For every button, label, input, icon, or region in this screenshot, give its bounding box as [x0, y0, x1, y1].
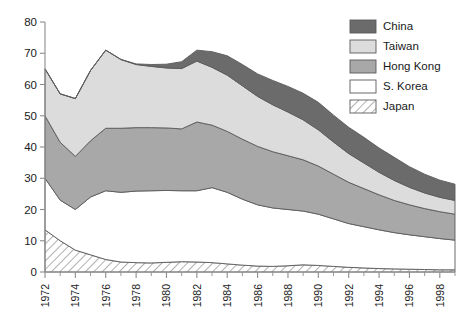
- x-tick-label: 1992: [343, 284, 355, 308]
- y-tick-label: 0: [31, 266, 37, 278]
- legend-label-japan: Japan: [383, 100, 414, 112]
- y-tick-label: 60: [24, 79, 37, 91]
- y-tick-label: 30: [24, 172, 37, 184]
- y-tick-label: 70: [24, 47, 37, 59]
- x-tick-label: 1988: [282, 284, 294, 308]
- x-tick-label: 1990: [312, 284, 324, 308]
- x-tick-label: 1996: [403, 284, 415, 308]
- stacked-area-chart: 01020304050607080 1972197419761978198019…: [0, 0, 466, 327]
- x-tick-label: 1972: [39, 284, 51, 308]
- legend-swatch-s-korea: [350, 80, 376, 93]
- x-tick-label: 1980: [160, 284, 172, 308]
- legend-swatch-japan: [350, 100, 376, 113]
- legend-label-china: China: [383, 20, 414, 32]
- y-tick-label: 80: [24, 16, 37, 28]
- legend-swatch-hong-kong: [350, 60, 376, 73]
- x-tick-label: 1982: [191, 284, 203, 308]
- x-tick-label: 1978: [130, 284, 142, 308]
- chart-legend: ChinaTaiwanHong KongS. KoreaJapan: [350, 20, 441, 113]
- legend-swatch-china: [350, 20, 376, 33]
- x-tick-label: 1998: [434, 284, 446, 308]
- legend-label-hong-kong: Hong Kong: [383, 60, 441, 72]
- x-tick-label: 1994: [373, 284, 385, 308]
- y-axis-ticks: 01020304050607080: [24, 16, 45, 278]
- legend-swatch-taiwan: [350, 40, 376, 53]
- y-tick-label: 40: [24, 141, 37, 153]
- y-tick-label: 20: [24, 204, 37, 216]
- x-axis-ticks: 1972197419761978198019821984198619881990…: [39, 272, 455, 307]
- y-tick-label: 50: [24, 110, 37, 122]
- x-tick-label: 1974: [69, 284, 81, 308]
- x-tick-label: 1986: [252, 284, 264, 308]
- y-tick-label: 10: [24, 235, 37, 247]
- chart-canvas: 01020304050607080 1972197419761978198019…: [0, 0, 466, 327]
- legend-label-s-korea: S. Korea: [383, 80, 428, 92]
- legend-label-taiwan: Taiwan: [383, 40, 419, 52]
- x-tick-label: 1976: [100, 284, 112, 308]
- x-tick-label: 1984: [221, 284, 233, 308]
